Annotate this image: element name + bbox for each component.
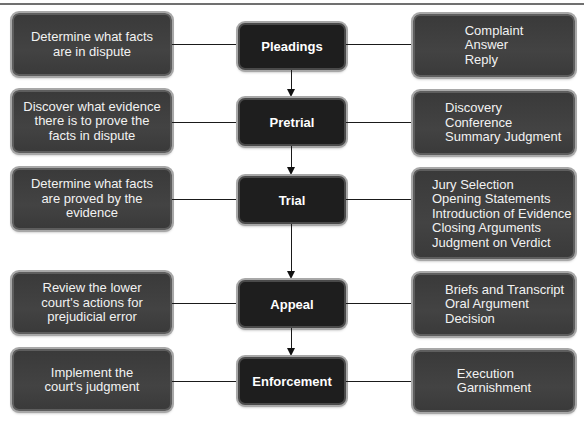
flow-line [291, 224, 292, 272]
steps-text: Jury Selection Opening Statements Introd… [432, 178, 571, 251]
steps-text: Briefs and Transcript Oral Argument Deci… [445, 283, 564, 327]
arrow-down-icon [287, 271, 295, 279]
connector-line [172, 303, 238, 304]
stage-label: Pleadings [261, 39, 322, 54]
flow-line [291, 70, 292, 90]
steps-text: Complaint Answer Reply [465, 24, 524, 68]
arrow-down-icon [287, 89, 295, 97]
connector-line [346, 381, 413, 382]
connector-line [346, 122, 413, 123]
steps-text: Execution Garnishment [457, 367, 531, 396]
stage-box-trial: Trial [238, 176, 346, 224]
purpose-box-appeal: Review the lower court's actions for pre… [12, 272, 172, 334]
steps-box-pleadings: Complaint Answer Reply [413, 14, 575, 77]
purpose-box-trial: Determine what facts are proved by the e… [12, 168, 172, 230]
stage-box-enforcement: Enforcement [238, 357, 346, 405]
connector-line [346, 44, 413, 45]
purpose-box-pretrial: Discover what evidence there is to prove… [12, 90, 172, 153]
stage-box-appeal: Appeal [238, 280, 346, 328]
connector-line [346, 303, 413, 304]
top-rule [0, 3, 584, 5]
connector-line [172, 199, 238, 200]
connector-line [172, 44, 238, 45]
flow-line [291, 328, 292, 349]
arrow-down-icon [287, 348, 295, 356]
steps-box-appeal: Briefs and Transcript Oral Argument Deci… [413, 273, 575, 336]
steps-box-trial: Jury Selection Opening Statements Introd… [413, 169, 575, 259]
purpose-text: Implement the court's judgment [45, 366, 140, 395]
steps-text: Discovery Conference Summary Judgment [445, 101, 561, 145]
connector-line [172, 381, 238, 382]
connector-line [346, 199, 413, 200]
purpose-box-pleadings: Determine what facts are in dispute [12, 13, 172, 76]
stage-box-pretrial: Pretrial [238, 98, 346, 146]
flow-line [291, 146, 292, 168]
connector-line [172, 122, 238, 123]
arrow-down-icon [287, 167, 295, 175]
stage-label: Appeal [270, 297, 313, 312]
purpose-box-enforcement: Implement the court's judgment [12, 349, 172, 411]
steps-box-enforcement: Execution Garnishment [413, 350, 575, 412]
steps-box-pretrial: Discovery Conference Summary Judgment [413, 91, 575, 155]
stage-label: Trial [279, 193, 306, 208]
stage-box-pleadings: Pleadings [238, 23, 346, 70]
purpose-text: Determine what facts are in dispute [31, 30, 153, 59]
stage-label: Pretrial [270, 115, 315, 130]
purpose-text: Determine what facts are proved by the e… [31, 177, 153, 221]
stage-label: Enforcement [252, 374, 331, 389]
purpose-text: Review the lower court's actions for pre… [41, 281, 142, 325]
purpose-text: Discover what evidence there is to prove… [23, 100, 160, 144]
